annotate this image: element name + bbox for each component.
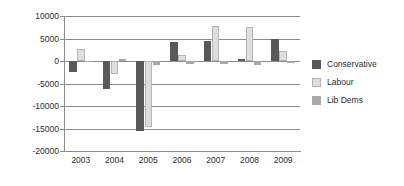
bar-labour-2007 (212, 26, 220, 61)
bar-lib-dems-2009 (287, 61, 295, 63)
bar-labour-2003 (77, 49, 85, 61)
bar-chart: 1000050000-5000-10000-15000-20000 Conser… (0, 0, 404, 186)
bar-conservative-2003 (69, 61, 77, 72)
legend-item-conservative[interactable]: Conservative (312, 60, 377, 69)
bar-conservative-2004 (103, 61, 111, 89)
bar-group-2009 (266, 16, 300, 151)
bar-conservative-2008 (238, 59, 246, 61)
y-tick-label: -5000 (4, 80, 59, 89)
bar-lib-dems-2005 (153, 61, 161, 65)
plot-area (64, 16, 300, 151)
y-tick-label: -10000 (4, 102, 59, 111)
legend-label: Conservative (327, 60, 377, 69)
bar-lib-dems-2008 (254, 61, 262, 65)
bar-labour-2005 (145, 61, 153, 127)
legend-label: Labour (327, 78, 353, 87)
x-tick-label-2004: 2004 (98, 156, 132, 165)
legend-swatch-icon (312, 78, 321, 87)
x-axis-line (64, 151, 301, 152)
bar-lib-dems-2004 (119, 59, 127, 61)
bar-group-2008 (233, 16, 267, 151)
bar-group-2003 (64, 16, 98, 151)
bar-conservative-2009 (271, 39, 279, 62)
x-tick-label-2006: 2006 (165, 156, 199, 165)
bar-conservative-2006 (170, 42, 178, 61)
x-tick-label-2005: 2005 (131, 156, 165, 165)
y-tick-label: 0 (4, 57, 59, 66)
bar-labour-2004 (111, 61, 119, 74)
legend-item-libdems[interactable]: Lib Dems (312, 96, 377, 105)
bar-group-2004 (98, 16, 132, 151)
bar-labour-2009 (279, 51, 287, 61)
x-tick-label-2008: 2008 (233, 156, 267, 165)
y-axis-labels: 1000050000-5000-10000-15000-20000 (0, 0, 59, 186)
bar-group-2006 (165, 16, 199, 151)
bar-conservative-2005 (136, 61, 144, 131)
legend-swatch-icon (312, 96, 321, 105)
chart-legend: ConservativeLabourLib Dems (312, 60, 377, 105)
legend-swatch-icon (312, 60, 321, 69)
bar-labour-2008 (246, 27, 254, 61)
x-tick-label-2003: 2003 (64, 156, 98, 165)
bar-lib-dems-2006 (186, 61, 194, 64)
y-tick-label: -20000 (4, 147, 59, 156)
bar-lib-dems-2007 (220, 61, 228, 64)
bar-labour-2006 (178, 55, 186, 61)
x-tick-label-2007: 2007 (199, 156, 233, 165)
legend-item-labour[interactable]: Labour (312, 78, 377, 87)
legend-label: Lib Dems (327, 96, 363, 105)
y-tick-label: 5000 (4, 35, 59, 44)
bar-lib-dems-2003 (85, 61, 93, 62)
bar-group-2007 (199, 16, 233, 151)
bar-conservative-2007 (204, 41, 212, 61)
y-tick-label: -15000 (4, 125, 59, 134)
x-tick-label-2009: 2009 (266, 156, 300, 165)
y-tick-label: 10000 (4, 12, 59, 21)
bar-group-2005 (131, 16, 165, 151)
